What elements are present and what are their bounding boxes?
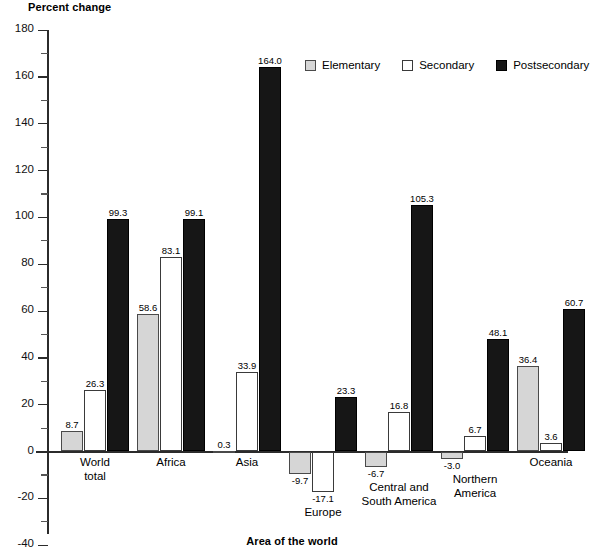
bar-value-label: 99.1 [173,207,215,218]
legend-item-secondary: Secondary [402,59,474,71]
bar-value-label: -3.0 [431,460,473,471]
bar-secondary [464,436,486,452]
bar-value-label: 164.0 [249,55,291,66]
legend-swatch-icon [496,60,507,71]
legend-label: Postsecondary [513,59,589,71]
y-axis-tick [38,123,48,124]
y-axis-minor-tick [41,193,48,194]
y-axis-tick [38,217,48,218]
legend-label: Elementary [322,59,380,71]
bar-value-label: 60.7 [553,297,594,308]
legend-item-elementary: Elementary [305,59,380,71]
bar-postsecondary [563,309,585,451]
y-axis-minor-tick [41,147,48,148]
bar-elementary [61,431,83,451]
x-axis-group-label: NorthernAmerica [417,472,533,500]
bar-value-label: -17.1 [302,493,344,504]
bar-secondary [312,452,334,492]
y-axis-minor-tick [41,334,48,335]
bar-postsecondary [411,205,433,452]
bar-postsecondary [107,219,129,452]
y-axis-tick [38,498,48,499]
y-axis-tick [38,451,48,452]
bar-elementary [213,451,235,453]
group-label-line: Northern [417,472,533,486]
y-axis-tick [38,76,48,77]
bar-postsecondary [335,397,357,452]
y-axis-tick-label: 80 [0,256,34,268]
bar-value-label: -6.7 [355,468,397,479]
bar-elementary [441,452,463,459]
group-label-line: total [37,469,153,483]
y-axis-minor-tick [41,521,48,522]
y-axis-tick-label: 120 [0,163,34,175]
group-label-line: Oceania [493,455,594,469]
group-label-line: Asia [189,455,305,469]
legend-label: Secondary [419,59,474,71]
y-axis-tick [38,311,48,312]
legend-item-postsecondary: Postsecondary [496,59,589,71]
x-axis-group-label: Asia [189,455,305,469]
y-axis-tick [38,264,48,265]
bar-value-label: 99.3 [97,207,139,218]
y-axis-tick-label: 100 [0,209,34,221]
bar-elementary [289,452,311,475]
chart-legend: Elementary Secondary Postsecondary [305,59,594,71]
y-axis-minor-tick [41,381,48,382]
bar-value-label: 36.4 [507,354,549,365]
y-axis-minor-tick [41,287,48,288]
bar-value-label: 23.3 [325,385,367,396]
y-axis-tick [38,30,48,31]
y-axis-tick-label: 140 [0,116,34,128]
bar-secondary [236,372,258,451]
y-axis-tick-label: 40 [0,350,34,362]
y-axis-tick-label: 0 [0,444,34,456]
y-axis-tick [38,404,48,405]
y-axis-minor-tick [41,240,48,241]
y-axis-tick-label: 20 [0,397,34,409]
y-axis-tick [38,357,48,358]
x-axis-group-label: Oceania [493,455,594,469]
bar-value-label: 105.3 [401,193,443,204]
bar-postsecondary [259,67,281,451]
bar-value-label: 48.1 [477,327,519,338]
bar-elementary [137,314,159,451]
bar-postsecondary [183,219,205,451]
y-axis-tick [38,170,48,171]
group-label-line: America [417,486,533,500]
y-axis-tick-label: 160 [0,69,34,81]
bar-secondary [540,443,562,451]
y-axis-minor-tick [41,53,48,54]
bar-secondary [84,390,106,452]
y-axis-tick-label: 60 [0,303,34,315]
bar-secondary [160,257,182,452]
bar-postsecondary [487,339,509,452]
y-axis-tick-label: 180 [0,22,34,34]
legend-swatch-icon [402,60,413,71]
legend-swatch-icon [305,60,316,71]
x-axis-title: Area of the world [0,535,584,547]
y-axis-minor-tick [41,100,48,101]
bar-secondary [388,412,410,451]
y-axis-minor-tick [41,428,48,429]
y-axis-tick-label: -20 [0,490,34,502]
bar-elementary [365,452,387,468]
